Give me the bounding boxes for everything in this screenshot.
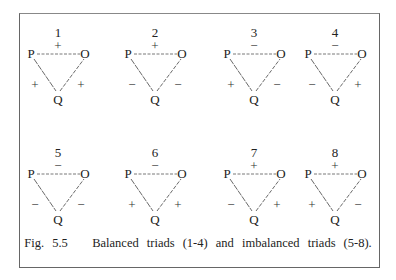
node-o: O [177,46,186,61]
sign-q-o: − [77,197,84,212]
sign-q-o: − [354,197,361,212]
triad-2: 2POQ+−− [124,25,186,107]
node-q: Q [249,92,259,107]
sign-p-q: − [227,197,234,212]
sign-q-o: + [174,197,181,212]
caption-text: Fig. 5.5 Balanced triads (1-4) and imbal… [24,236,371,250]
triad-8: 8POQ++− [304,145,366,227]
sign-p-o: − [331,38,338,53]
node-o: O [80,166,89,181]
sign-p-q: + [128,197,135,212]
sign-p-q: − [128,77,135,92]
sign-p-o: − [54,158,61,173]
sign-p-o: + [54,38,61,53]
sign-q-o: − [174,77,181,92]
sign-p-o: + [331,158,338,173]
node-q: Q [53,212,63,227]
sign-q-o: + [273,197,280,212]
triad-4: 4POQ−−+ [304,25,366,107]
node-o: O [177,166,186,181]
node-p: P [124,46,131,61]
node-q: Q [330,92,340,107]
triad-3: 3POQ−+− [223,25,285,107]
node-o: O [80,46,89,61]
sign-p-q: + [227,77,234,92]
node-o: O [276,46,285,61]
node-o: O [276,166,285,181]
sign-p-o: + [151,38,158,53]
node-p: P [27,166,34,181]
node-o: O [357,46,366,61]
node-q: Q [150,92,160,107]
triad-6: 6POQ−++ [124,145,186,227]
node-q: Q [330,212,340,227]
sign-q-o: + [77,77,84,92]
triad-1: 1POQ+++ [27,25,89,107]
triad-7: 7POQ+−+ [223,145,285,227]
sign-p-q: + [308,197,315,212]
sign-q-o: − [273,77,280,92]
sign-p-q: + [31,77,38,92]
sign-p-q: − [31,197,38,212]
sign-p-o: − [250,38,257,53]
node-p: P [304,166,311,181]
triad-5: 5POQ−−− [27,145,89,227]
node-o: O [357,166,366,181]
sign-p-q: − [308,77,315,92]
node-p: P [223,46,230,61]
node-p: P [124,166,131,181]
node-p: P [223,166,230,181]
node-p: P [27,46,34,61]
node-q: Q [150,212,160,227]
figure-caption: Fig. 5.5 Balanced triads (1-4) and imbal… [0,236,396,251]
sign-p-o: − [151,158,158,173]
node-q: Q [53,92,63,107]
node-q: Q [249,212,259,227]
sign-q-o: + [354,77,361,92]
node-p: P [304,46,311,61]
sign-p-o: + [250,158,257,173]
